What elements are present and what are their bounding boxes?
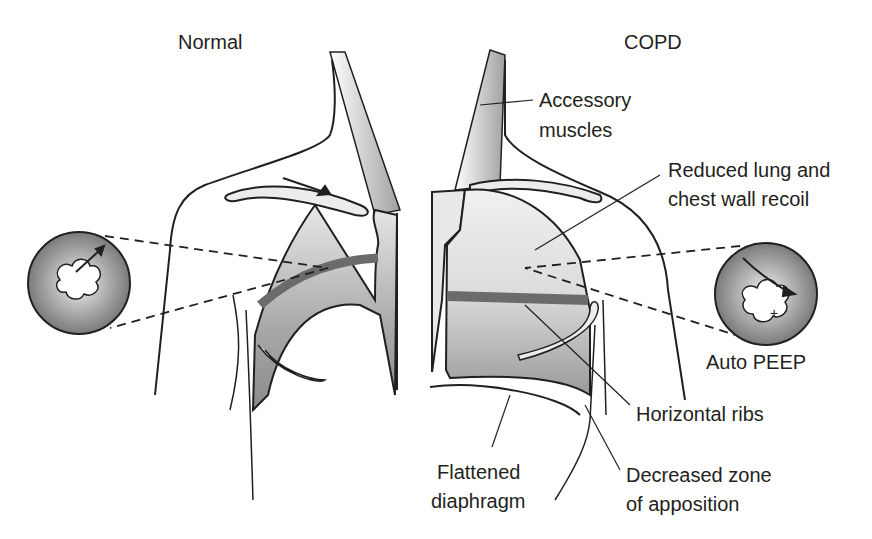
- label-accessory-muscles-1: Accessory: [539, 88, 631, 112]
- normal-alveolus-inset: [28, 232, 130, 334]
- label-reduced-recoil-2: chest wall recoil: [668, 187, 809, 211]
- copd-diagram: + Normal COPD Accessory muscles Reduced …: [0, 0, 872, 539]
- label-auto-peep: Auto PEEP: [706, 350, 806, 374]
- label-flattened-diaphragm-1: Flattened: [437, 460, 520, 484]
- label-flattened-diaphragm-2: diaphragm: [431, 489, 526, 513]
- label-decreased-zone-2: of apposition: [626, 492, 739, 516]
- label-horizontal-ribs: Horizontal ribs: [636, 402, 764, 426]
- diagram-drawing: +: [0, 0, 872, 539]
- label-accessory-muscles-2: muscles: [539, 118, 612, 142]
- normal-thorax: [155, 52, 400, 500]
- title-copd: COPD: [624, 30, 682, 54]
- title-normal: Normal: [178, 30, 242, 54]
- svg-text:+: +: [770, 305, 778, 321]
- copd-accessory-muscles: [455, 50, 505, 190]
- normal-accessory-muscles: [330, 52, 400, 215]
- copd-alveolus-inset: +: [715, 243, 817, 345]
- label-reduced-recoil-1: Reduced lung and: [668, 158, 830, 182]
- label-decreased-zone-1: Decreased zone: [626, 463, 772, 487]
